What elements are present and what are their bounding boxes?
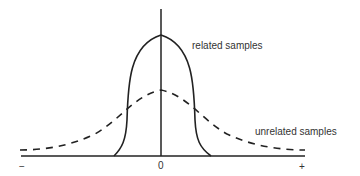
x-tick-minus: − bbox=[19, 161, 25, 172]
x-tick-plus: + bbox=[299, 161, 305, 172]
unrelated-samples-label: unrelated samples bbox=[255, 126, 337, 137]
unrelated-samples-curve bbox=[20, 90, 305, 150]
distribution-diagram: related samples unrelated samples − 0 + bbox=[0, 0, 360, 176]
x-tick-zero: 0 bbox=[158, 160, 164, 171]
related-samples-label: related samples bbox=[192, 40, 263, 51]
related-samples-curve bbox=[114, 35, 211, 156]
